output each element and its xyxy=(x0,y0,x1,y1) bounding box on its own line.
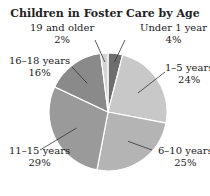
label-19-and-older: 19 and older2% xyxy=(30,22,94,46)
label-6-10-years: 6–10 years25% xyxy=(158,145,210,169)
label-under-1-year: Under 1 year4% xyxy=(140,22,207,46)
label-11-15-years: 11–15 years29% xyxy=(9,145,70,169)
pie-slice-6-10-years xyxy=(97,112,166,171)
label-16-18-years: 16–18 years16% xyxy=(9,55,70,79)
label-1-5-years: 1–5 years24% xyxy=(165,62,210,86)
